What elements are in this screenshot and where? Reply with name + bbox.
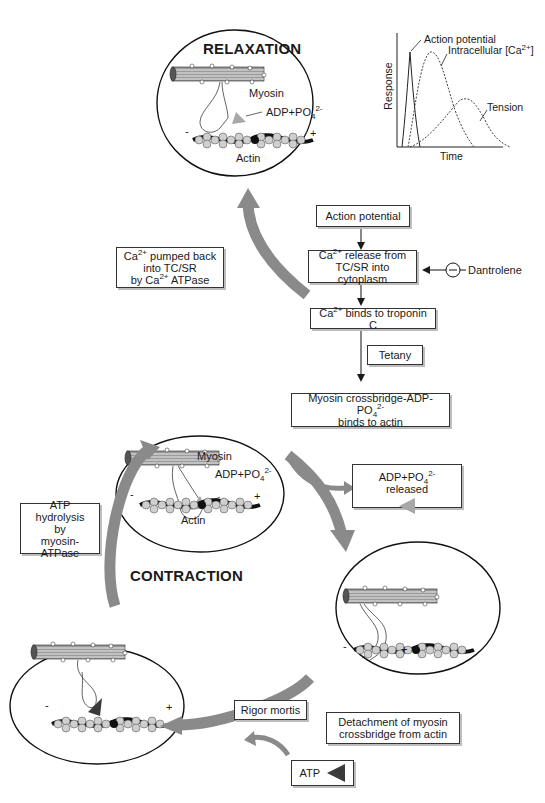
- action-potential-box: Action potential: [316, 205, 410, 227]
- contraction-title: CONTRACTION: [130, 567, 243, 584]
- adp-released-box: ADP+PO42- released: [352, 464, 462, 508]
- chart-legend-tension: Tension: [487, 101, 523, 113]
- atp-box: ATP: [291, 760, 354, 786]
- adp-label: ADP+PO42-: [266, 106, 323, 118]
- minus-end-label: -: [130, 488, 134, 500]
- plus-end-label: +: [166, 701, 172, 713]
- myosin-label: Myosin: [197, 450, 232, 462]
- muscle-contraction-cycle-diagram: RELAXATION CONTRACTION Myosin ADP+PO42- …: [0, 0, 545, 803]
- tetany-box: Tetany: [367, 345, 423, 365]
- detachment-box: Detachment of myosin crossbridge from ac…: [326, 712, 460, 744]
- minus-end-label: -: [45, 699, 49, 711]
- diagram-graphics: [0, 0, 545, 803]
- plus-end-label: +: [254, 490, 260, 502]
- rigor-mortis-box: Rigor mortis: [234, 700, 307, 720]
- contraction-left-panel: [10, 642, 184, 764]
- actin-label: Actin: [236, 152, 260, 164]
- atp-hydrolysis-box: ATP hydrolysis by myosin-ATPase: [20, 503, 100, 554]
- atp-triangle-icon: [327, 764, 345, 782]
- chart-x-axis-label: Time: [440, 150, 463, 162]
- relaxation-title: RELAXATION: [203, 40, 301, 57]
- ca-binds-troponin-box: Ca2+ binds to troponin C: [310, 308, 436, 329]
- contraction-right-panel: [336, 542, 500, 674]
- adp-triangle-icon: [399, 498, 415, 514]
- plus-end-label: +: [401, 643, 407, 655]
- dantrolene-label: Dantrolene: [468, 264, 522, 276]
- ca-pumped-back-box: Ca2+ pumped back into TC/SR by Ca2+ ATPa…: [116, 247, 224, 288]
- chart-legend-intracellular-ca: Intracellular [Ca2+]: [448, 44, 534, 56]
- ca-release-box: Ca2+ release from TC/SR into cytoplasm: [308, 250, 417, 283]
- minus-end-label: -: [343, 640, 347, 652]
- myosin-label: Myosin: [249, 87, 284, 99]
- minus-end-label: -: [185, 125, 189, 137]
- chart-y-axis-label: Response: [382, 62, 394, 109]
- myosin-binds-actin-box: Myosin crossbridge-ADP- PO42- binds to a…: [291, 393, 450, 427]
- adp-label: ADP+PO42-: [215, 468, 272, 480]
- actin-label: Actin: [181, 514, 205, 526]
- plus-end-label: +: [310, 127, 316, 139]
